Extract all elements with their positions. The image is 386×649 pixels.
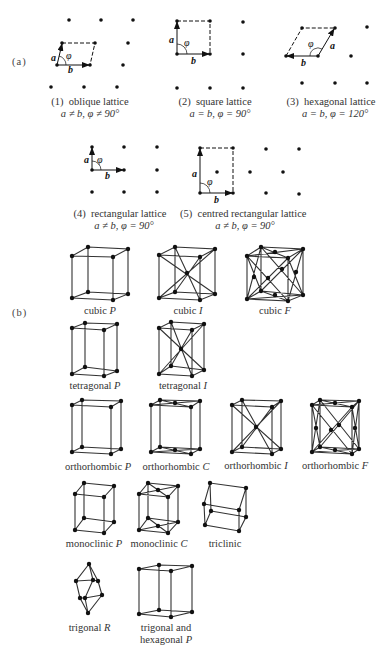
bravais-caption-cubic-i: cubic I [158,305,218,317]
svg-text:b: b [214,194,219,205]
bravais-caption-monoclinic-p: monoclinic P [62,538,126,550]
lattice-condition-centred-rectangular: a ≠ b, φ = 90° [190,220,300,231]
svg-text:φ: φ [97,154,103,165]
bravais-caption-triclinic: triclinic [200,538,250,550]
bravais-caption-trigonal-r: trigonal R [62,622,117,634]
lattice-caption-centred-rectangular: (5) centred rectangular lattice [180,208,300,220]
part-a-label: (a) [12,56,27,67]
bravais-caption-tetragonal-p: tetragonal P [60,380,130,392]
svg-text:a: a [192,168,197,179]
lattice-condition-square: a = b, φ = 90° [165,108,275,119]
bravais-caption-orthorhombic-p: orthorhombic P [60,461,136,473]
bravais-caption-orthorhombic-i: orthorhombic I [218,460,294,472]
lattice-caption-hexagonal: (3) hexagonal lattice [276,96,386,108]
bravais-caption-cubic-p: cubic P [70,305,130,317]
svg-text:a: a [169,34,174,45]
svg-text:a: a [84,154,89,165]
svg-text:φ: φ [308,38,314,49]
lattice-condition-hexagonal: a = b, φ = 120° [280,108,386,119]
svg-text:b: b [68,64,73,75]
svg-text:a: a [330,40,335,51]
svg-text:b: b [191,55,196,66]
svg-text:φ: φ [207,176,213,187]
svg-text:a: a [51,52,56,63]
bravais-caption-orthorhombic-c: orthorhombic C [138,461,214,473]
lattice-caption-rectangular: (4) rectangular lattice [70,208,170,220]
svg-text:φ: φ [66,50,72,61]
svg-text:b: b [301,57,306,68]
lattice-caption-square: (2) square lattice [160,96,270,108]
bravais-caption-monoclinic-c: monoclinic C [127,538,191,550]
lattice-caption-oblique: (1) oblique lattice [30,96,150,108]
lattice-condition-oblique: a ≠ b, φ ≠ 90° [30,108,150,119]
bravais-caption-tetragonal-i: tetragonal I [148,380,218,392]
svg-text:φ: φ [184,37,190,48]
lattice-condition-rectangular: a ≠ b, φ = 90° [74,220,174,231]
part-b-label: (b) [12,307,27,318]
bravais-caption-cubic-f: cubic F [245,305,305,317]
bravais-caption-trigonal-hexagonal-p: trigonal and hexagonal P [136,622,196,646]
svg-text:b: b [105,170,110,181]
oblique-lattice-points [49,18,135,89]
centred-rectangular-lattice-points [198,146,301,196]
bravais-caption-orthorhombic-f: orthorhombic F [297,460,373,472]
hexagonal-lattice-points [284,25,369,85]
square-lattice-points [175,19,245,90]
